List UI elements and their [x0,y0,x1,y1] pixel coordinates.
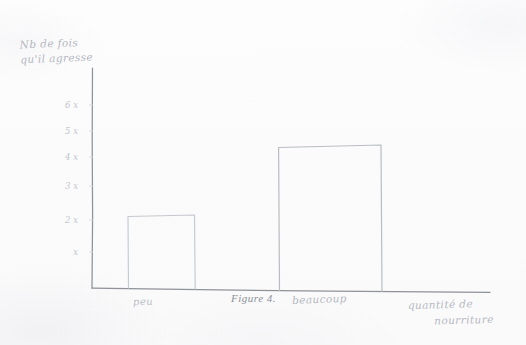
y-axis-label-line2: qu'il agresse [20,51,93,66]
y-tick-label-1: x [52,247,78,257]
x-axis-label-line2: nourriture [408,311,494,329]
category-label-beaucoup: beaucoup [292,292,347,306]
x-axis-label: quantité de nourriture [408,295,494,329]
figure-caption: Figure 4. [231,292,276,304]
category-label-peu: peu [133,296,153,307]
y-axis-label-line1: Nb de fois [19,36,78,50]
scanned-figure-page: Nb de fois qu'il agresse 6 x 5 x 4 x 3 x… [0,0,526,345]
y-tick-label-5: 5 x [52,126,78,136]
x-axis-line [92,288,490,292]
y-tick-label-4: 4 x [52,152,78,162]
y-axis-label: Nb de fois qu'il agresse [19,35,93,68]
y-tick-label-6: 6 x [52,100,78,110]
y-tick-label-3: 3 x [52,181,78,191]
y-tick-label-2: 2 x [52,215,78,225]
y-axis-line [92,68,93,288]
x-axis-label-line1: quantité de [408,297,473,311]
bar-beaucoup [279,145,382,292]
bar-peu [128,215,195,289]
